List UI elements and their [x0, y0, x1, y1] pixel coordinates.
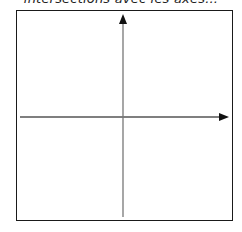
y-axis-arrow-icon: [119, 14, 127, 24]
x-axis-arrow-icon: [219, 113, 229, 121]
axes-diagram: [0, 0, 242, 232]
x-axis: [20, 113, 229, 121]
y-axis: [119, 14, 127, 217]
